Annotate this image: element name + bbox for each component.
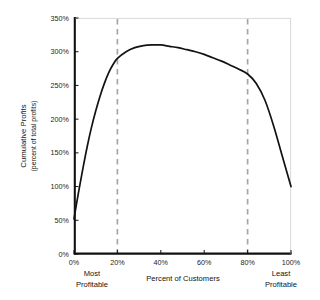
most-profitable-line2: Profitable	[76, 280, 108, 289]
y-axis-title: Cumulative Profits	[19, 104, 28, 167]
cumulative-profits-chart: 0%50%100%150%200%250%300%350% 0%20%40%60…	[0, 0, 320, 300]
chart-container: 0%50%100%150%200%250%300%350% 0%20%40%60…	[0, 0, 320, 300]
least-profitable-line1: Least	[272, 269, 291, 278]
x-tick-label: 80%	[240, 258, 255, 267]
x-tick-label: 60%	[197, 258, 212, 267]
y-tick-label: 300%	[51, 47, 70, 56]
y-tick-label: 350%	[51, 14, 70, 23]
least-profitable-line2: Profitable	[265, 280, 297, 289]
most-profitable-annotation: Most Profitable	[76, 269, 108, 289]
plot-background	[74, 18, 291, 254]
y-tick-label: 150%	[51, 148, 70, 157]
most-profitable-line1: Most	[84, 269, 101, 278]
x-tick-label: 100%	[282, 258, 301, 267]
x-tick-label: 20%	[110, 258, 125, 267]
y-axis-title-group: Cumulative Profits (percent of total pro…	[19, 101, 38, 172]
y-tick-label: 50%	[55, 216, 70, 225]
y-tick-label: 250%	[51, 81, 70, 90]
least-profitable-annotation: Least Profitable	[265, 269, 297, 289]
x-tick-label: 0%	[69, 258, 80, 267]
y-tick-label: 100%	[51, 182, 70, 191]
y-tick-label: 200%	[51, 115, 70, 124]
x-tick-label: 40%	[154, 258, 169, 267]
x-axis-title: Percent of Customers	[146, 274, 220, 283]
y-axis-subtitle: (percent of total profits)	[30, 101, 38, 172]
